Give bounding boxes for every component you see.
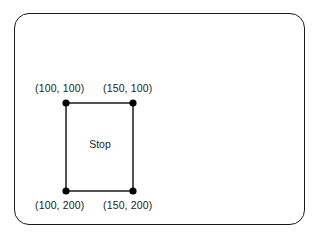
figure-root: (100, 100) (150, 100) (100, 200) (150, 2… bbox=[0, 0, 320, 238]
outer-frame bbox=[14, 13, 305, 225]
